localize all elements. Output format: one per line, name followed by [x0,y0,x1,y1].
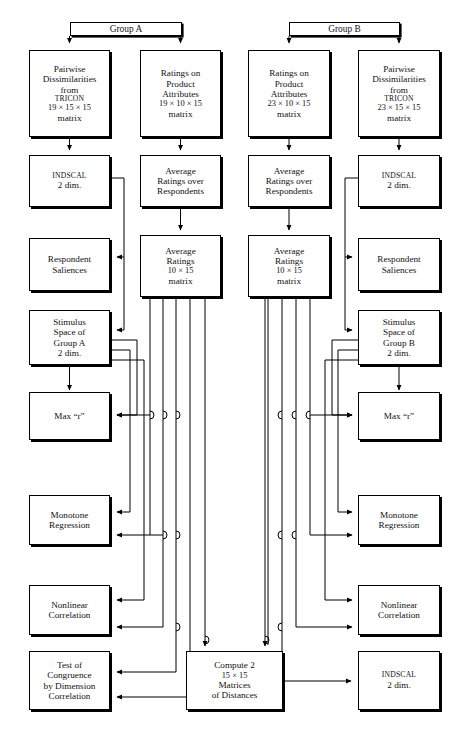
node-text-line: Compute 2 [189,660,280,670]
node-text-line: matrix [143,276,218,286]
node-text-line: 2 dim. [32,180,107,190]
node-text-line: matrix [143,109,218,119]
node-text-line: 2 dim. [361,348,437,358]
node-indscal-a: INDSCAL2 dim. [29,155,110,207]
group-b-label: Group B [328,24,361,34]
node-ratings-product-attributes-b: Ratings onProductAttributes23 × 10 × 15m… [248,50,330,137]
node-text-line: Matrices [189,680,280,690]
node-text-line: 19 × 10 × 15 [143,99,218,108]
node-text-line: Correlation [361,610,437,620]
node-text-line: Ratings on [251,68,327,78]
node-text-line: Ratings on [143,68,218,78]
node-label: AverageRatings10 × 15matrix [251,246,327,286]
node-nonlinear-correlation-b: NonlinearCorrelation [358,585,440,635]
node-text-line: Congruence [32,670,107,680]
node-text-line: matrix [251,276,327,286]
node-text-line: Max “r” [361,411,437,421]
node-label: AverageRatings overRespondents [251,166,327,197]
node-max-r-b: Max “r” [358,392,440,440]
node-label: INDSCAL2 dim. [361,671,437,690]
node-text-line: Dissimilarities [361,74,437,84]
node-compute-distance-matrices: Compute 215 × 15Matricesof Distances [186,651,283,710]
node-label: Ratings onProductAttributes23 × 10 × 15m… [251,68,327,119]
node-label: StimulusSpace ofGroup A2 dim. [32,317,107,358]
node-text-line: Product [143,79,218,89]
node-average-ratings-matrix-b: AverageRatings10 × 15matrix [248,235,330,297]
group-a-label: Group A [110,24,143,34]
node-respondent-saliences-b: RespondentSaliences [358,238,440,291]
node-text-line: Monotone [32,510,107,520]
node-test-of-congruence-a: Test ofCongruenceby DimensionCorrelation [29,651,110,710]
node-text-line: from TRICON [32,85,107,104]
node-label: INDSCAL2 dim. [32,172,107,191]
node-text-line: Space of [361,327,437,337]
group-header-b: Group B [289,22,400,36]
node-text-line: 23 × 15 × 15 [361,103,437,112]
node-text-line: Saliences [361,265,437,275]
node-text-line: 2 dim. [32,348,107,358]
node-text-line: Ratings [251,256,327,266]
node-text-line: INDSCAL [361,172,437,181]
node-label: NonlinearCorrelation [32,600,107,621]
node-average-ratings-matrix-a: AverageRatings10 × 15matrix [140,235,221,297]
node-average-ratings-over-respondents-b: AverageRatings overRespondents [248,155,330,207]
node-text-line: Product [251,79,327,89]
node-label: NonlinearCorrelation [361,600,437,621]
node-text-line: 10 × 15 [143,266,218,275]
node-label: AverageRatings10 × 15matrix [143,246,218,286]
node-stimulus-space-group-a: StimulusSpace ofGroup A2 dim. [29,310,110,365]
node-text-line: Ratings over [251,176,327,186]
node-text-line: Saliences [32,265,107,275]
node-final-indscal: INDSCAL2 dim. [358,651,440,710]
node-text-line: Stimulus [32,317,107,327]
node-text-line: Space of [32,327,107,337]
node-text-line: matrix [361,113,437,123]
node-label: Ratings onProductAttributes19 × 10 × 15m… [143,68,218,119]
node-text-line: Average [143,246,218,256]
node-text-line: Average [251,246,327,256]
node-text-line: 2 dim. [361,180,437,190]
node-pairwise-dissimilarities-b: PairwiseDissimilaritiesfrom TRICON23 × 1… [358,50,440,137]
node-text-line: Regression [361,520,437,530]
node-text-line: Correlation [32,610,107,620]
node-label: PairwiseDissimilaritiesfrom TRICON23 × 1… [361,64,437,123]
node-text-line: Ratings over [143,176,218,186]
node-text-line: Regression [32,520,107,530]
node-text-line: Pairwise [361,64,437,74]
node-text-line: Attributes [251,89,327,99]
node-text-line: Respondents [143,186,218,196]
node-label: INDSCAL2 dim. [361,172,437,191]
node-text-line: Nonlinear [32,600,107,610]
node-text-line: matrix [251,109,327,119]
node-ratings-product-attributes-a: Ratings onProductAttributes19 × 10 × 15m… [140,50,221,137]
node-pairwise-dissimilarities-a: PairwiseDissimilaritiesfrom TRICON19 × 1… [29,50,110,137]
node-text-line: Test of [32,660,107,670]
node-text-line: Average [143,166,218,176]
node-monotone-regression-a: MonotoneRegression [29,495,110,545]
node-text-line: Correlation [32,691,107,701]
node-text-line: Monotone [361,510,437,520]
node-text-line: Group A [32,338,107,348]
node-indscal-b: INDSCAL2 dim. [358,155,440,207]
node-text-line: matrix [32,113,107,123]
node-text-line: Attributes [143,89,218,99]
node-text-line: Ratings [143,256,218,266]
node-text-line: INDSCAL [32,172,107,181]
node-text-line: Average [251,166,327,176]
node-text-line: 23 × 10 × 15 [251,99,327,108]
node-text-line: from TRICON [361,85,437,104]
node-label: StimulusSpace ofGroup B2 dim. [361,317,437,358]
node-label: MonotoneRegression [361,510,437,531]
node-text-line: INDSCAL [361,671,437,680]
node-nonlinear-correlation-a: NonlinearCorrelation [29,585,110,635]
node-label: Max “r” [361,411,437,421]
node-label: Max “r” [32,411,107,421]
node-label: PairwiseDissimilaritiesfrom TRICON19 × 1… [32,64,107,123]
node-label: RespondentSaliences [32,254,107,275]
node-text-line: Respondent [361,254,437,264]
node-monotone-regression-b: MonotoneRegression [358,495,440,545]
node-respondent-saliences-a: RespondentSaliences [29,238,110,291]
flowchart-diagram: Group A Group B PairwiseDissimilaritiesf… [0,0,459,734]
node-text-line: Respondents [251,186,327,196]
node-label: MonotoneRegression [32,510,107,531]
